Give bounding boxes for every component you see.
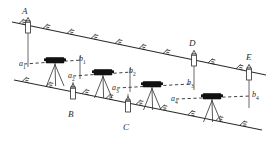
reading-label-b1: b1	[79, 55, 86, 65]
reading-label-a4: a4	[171, 95, 178, 105]
level-instrument-2	[92, 70, 114, 99]
reading-a2-sub: 2	[72, 76, 75, 82]
reading-b2-sub: 2	[133, 71, 136, 77]
point-label-A: A	[22, 7, 28, 16]
upper-ground-line	[12, 18, 266, 75]
reading-b4-sub: 4	[256, 95, 259, 101]
reading-label-b4: b4	[252, 91, 259, 101]
reading-label-a3: a3	[112, 84, 119, 94]
diagram-canvas	[0, 0, 274, 144]
reading-b1-sub: 1	[83, 59, 86, 65]
staff-E	[247, 64, 252, 108]
staff-B	[71, 82, 76, 99]
point-label-C: C	[123, 123, 129, 132]
staff-C	[126, 94, 131, 112]
point-label-D: D	[189, 39, 196, 48]
sight-lines	[24, 60, 251, 99]
staff-A	[26, 17, 31, 67]
reading-label-b2: b2	[129, 67, 136, 77]
reading-a4-sub: 4	[175, 99, 178, 105]
level-instrument-4	[201, 94, 223, 123]
reading-label-b3: b3	[187, 79, 194, 89]
reading-label-a2: a2	[68, 72, 75, 82]
leveling-diagram: A B C D E a1 b1 a2 b2 a3 b3 a4 b4	[0, 0, 274, 144]
lower-ground-line	[14, 77, 262, 130]
reading-a3-sub: 3	[116, 88, 119, 94]
point-label-B: B	[68, 110, 74, 119]
point-label-E: E	[246, 53, 252, 62]
reading-b3-sub: 3	[191, 83, 194, 89]
level-instrument-1	[44, 58, 66, 87]
reading-label-a1: a1	[19, 60, 26, 70]
reading-a1-sub: 1	[23, 64, 26, 70]
